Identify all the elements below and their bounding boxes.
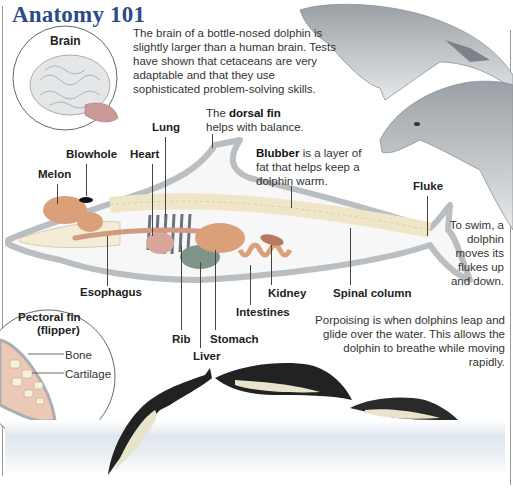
fluke-leader xyxy=(427,196,428,236)
blubber-description: Blubber is a layer of fat that helps kee… xyxy=(256,146,376,188)
brain-label: Brain xyxy=(50,34,81,48)
spinal-column-label: Spinal column xyxy=(333,287,412,299)
blowhole-label: Blowhole xyxy=(66,148,117,160)
esophagus-leader xyxy=(107,236,108,286)
blubber-bold: Blubber xyxy=(256,147,299,159)
stomach-label: Stomach xyxy=(210,333,259,345)
stomach-leader xyxy=(215,250,216,330)
kidney-label: Kidney xyxy=(268,287,306,299)
cartilage-label: Cartilage xyxy=(65,367,111,381)
heart-leader xyxy=(152,164,153,236)
lung-leader xyxy=(165,137,166,217)
brain-description: The brain of a bottle-nosed dolphin is s… xyxy=(133,26,338,96)
flipper-label: (flipper) xyxy=(37,324,80,336)
blowhole-leader xyxy=(86,164,87,196)
intestines-label: Intestines xyxy=(236,306,290,318)
dorsal-fin-description: The dorsal finhelps with balance. xyxy=(206,106,346,134)
fluke-description: To swim, a dolphin moves its flukes up a… xyxy=(440,218,504,288)
melon-leader xyxy=(57,184,58,204)
kidney-leader xyxy=(271,245,272,285)
fluke-label: Fluke xyxy=(413,180,443,192)
esophagus-label: Esophagus xyxy=(80,286,142,298)
bone-label: Bone xyxy=(65,348,92,362)
dorsal-suffix: helps with balance. xyxy=(206,121,304,133)
blubber-leader xyxy=(291,186,292,208)
intestines-leader xyxy=(250,265,251,305)
liver-leader xyxy=(200,262,201,348)
dorsal-prefix: The xyxy=(206,107,229,119)
heart-label: Heart xyxy=(130,148,159,160)
rib-leader xyxy=(181,245,182,330)
dorsal-fin-leader xyxy=(212,134,213,148)
page-title: Anatomy 101 xyxy=(12,2,145,28)
dolphin-cross-section xyxy=(8,140,470,280)
rib-label: Rib xyxy=(172,333,191,345)
lung-label: Lung xyxy=(152,121,180,133)
melon-label: Melon xyxy=(38,168,71,180)
water-surface xyxy=(5,420,505,475)
liver-label: Liver xyxy=(193,350,221,362)
spinal-column-leader xyxy=(350,228,351,285)
dorsal-bold: dorsal fin xyxy=(229,107,281,119)
porpoising-description: Porpoising is when dolphins leap and gli… xyxy=(310,313,505,369)
pectoral-fin-label: Pectoral fin xyxy=(18,311,81,323)
